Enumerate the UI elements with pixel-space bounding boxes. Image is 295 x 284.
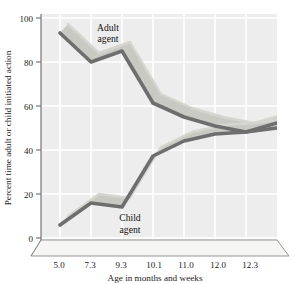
adult-agent-annotation: Adult agent bbox=[97, 22, 119, 44]
x-tick-label-1: 5.0 bbox=[53, 260, 65, 270]
x-tick-label-6: 12.0 bbox=[210, 260, 226, 270]
y-tick-label-20: 20 bbox=[24, 190, 34, 200]
base-plane bbox=[31, 240, 289, 256]
y-tick-marks bbox=[36, 18, 41, 238]
y-tick-label-40: 40 bbox=[24, 146, 34, 156]
x-tick-label-5: 11.0 bbox=[178, 260, 194, 270]
child-agent-annotation: Child agent bbox=[119, 212, 141, 235]
line-chart: 100 80 60 40 20 0 5.0 7.3 9.3 10.1 11.0 … bbox=[0, 0, 295, 284]
adult-agent-label-line1: Adult bbox=[97, 22, 119, 33]
x-tick-label-7: 12.3 bbox=[242, 260, 258, 270]
y-tick-label-80: 80 bbox=[24, 58, 34, 68]
x-axis-title: Age in months and weeks bbox=[108, 273, 203, 283]
y-tick-label-60: 60 bbox=[24, 102, 34, 112]
child-agent-label-line2: agent bbox=[120, 224, 141, 235]
x-tick-label-3: 9.3 bbox=[115, 260, 127, 270]
child-agent-label-line1: Child bbox=[119, 212, 141, 223]
adult-agent-label-line2: agent bbox=[98, 33, 119, 44]
y-axis-title: Percent time adult or child initiated ac… bbox=[3, 50, 13, 205]
x-tick-label-4: 10.1 bbox=[146, 260, 162, 270]
chart-figure: 100 80 60 40 20 0 5.0 7.3 9.3 10.1 11.0 … bbox=[0, 0, 295, 284]
y-tick-label-100: 100 bbox=[20, 14, 34, 24]
y-tick-label-0: 0 bbox=[29, 234, 34, 244]
x-tick-label-2: 7.3 bbox=[84, 260, 96, 270]
